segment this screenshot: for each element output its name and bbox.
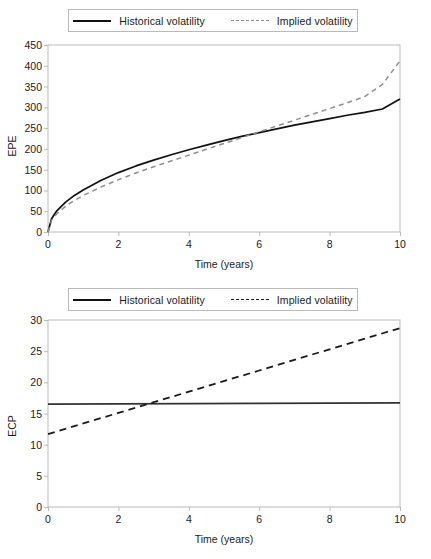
plot-area-epe xyxy=(0,0,431,280)
chart-panel-epe: Historical volatility Implied volatility… xyxy=(0,0,431,280)
plot-area-ecp xyxy=(0,280,431,559)
plot-frame xyxy=(48,45,400,232)
series-line-historical-volatility xyxy=(48,403,400,404)
series-line-implied-volatility xyxy=(48,328,400,434)
series-line-historical-volatility xyxy=(48,99,400,232)
chart-panel-ecp: Historical volatility Implied volatility… xyxy=(0,280,431,559)
plot-frame xyxy=(48,320,400,507)
figure-container: Historical volatility Implied volatility… xyxy=(0,0,431,559)
series-line-implied-volatility xyxy=(48,61,400,232)
